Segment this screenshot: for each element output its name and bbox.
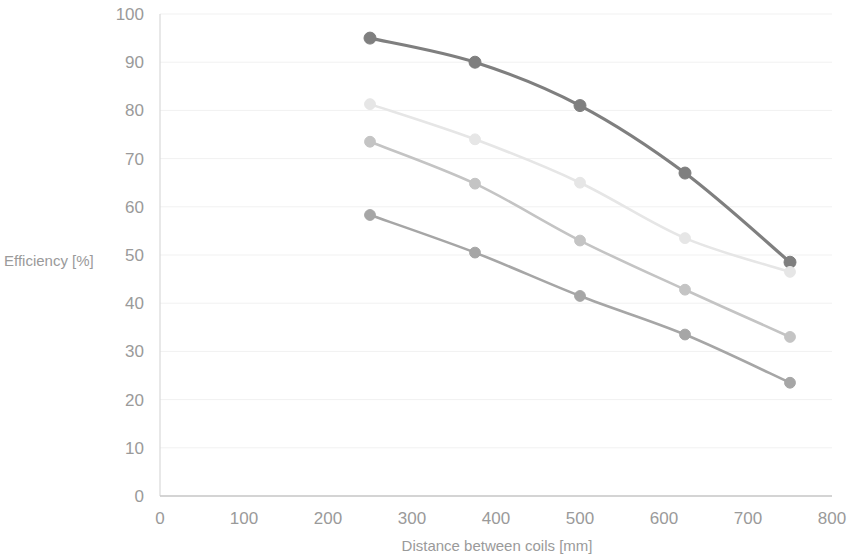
data-series (365, 99, 796, 278)
y-tick-label: 90 (125, 53, 144, 72)
data-point-marker (785, 332, 796, 343)
data-point-marker (785, 266, 796, 277)
x-tick-label: 0 (155, 509, 164, 528)
data-point-marker (575, 291, 586, 302)
data-point-marker (575, 235, 586, 246)
data-point-marker (470, 134, 481, 145)
y-axis-tick-labels: 0102030405060708090100 (116, 5, 144, 506)
data-point-marker (680, 233, 691, 244)
x-tick-label: 500 (566, 509, 594, 528)
data-point-marker (470, 247, 481, 258)
y-tick-label: 70 (125, 150, 144, 169)
data-point-marker (470, 178, 481, 189)
y-tick-label: 80 (125, 101, 144, 120)
data-point-marker (365, 136, 376, 147)
y-tick-label: 10 (125, 439, 144, 458)
y-tick-label: 40 (125, 294, 144, 313)
x-axis-tick-labels: 0100200300400500600700800 (155, 509, 846, 528)
data-point-marker (469, 56, 481, 68)
x-tick-label: 200 (314, 509, 342, 528)
data-series-layer (364, 32, 796, 388)
data-point-marker (364, 32, 376, 44)
data-point-marker (365, 99, 376, 110)
x-tick-label: 600 (650, 509, 678, 528)
series-line (370, 38, 790, 262)
y-tick-label: 20 (125, 391, 144, 410)
efficiency-vs-distance-chart: 0102030405060708090100 01002003004005006… (0, 0, 856, 558)
x-tick-label: 800 (818, 509, 846, 528)
x-tick-label: 300 (398, 509, 426, 528)
data-point-marker (365, 210, 376, 221)
y-tick-label: 0 (135, 487, 144, 506)
data-point-marker (679, 167, 691, 179)
data-point-marker (680, 284, 691, 295)
data-series (365, 136, 796, 342)
data-point-marker (575, 177, 586, 188)
data-point-marker (785, 377, 796, 388)
y-tick-label: 30 (125, 342, 144, 361)
y-axis-title: Efficiency [%] (4, 252, 94, 269)
data-point-marker (574, 100, 586, 112)
y-tick-label: 50 (125, 246, 144, 265)
data-series (364, 32, 796, 268)
x-tick-label: 700 (734, 509, 762, 528)
x-tick-label: 100 (230, 509, 258, 528)
y-tick-label: 100 (116, 5, 144, 24)
y-tick-label: 60 (125, 198, 144, 217)
x-tick-label: 400 (482, 509, 510, 528)
chart-canvas: 0102030405060708090100 01002003004005006… (0, 0, 856, 558)
data-point-marker (680, 329, 691, 340)
x-axis-title: Distance between coils [mm] (402, 537, 593, 554)
